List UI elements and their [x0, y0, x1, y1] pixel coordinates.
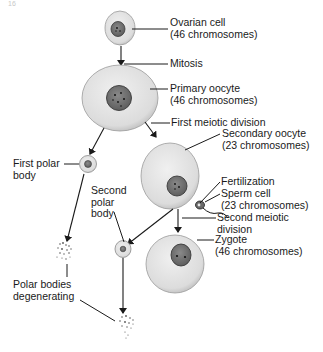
degenerating-leader-2: [80, 300, 115, 321]
label-secondary-oocyte: Secondary oocyte (23 chromosomes): [222, 128, 310, 151]
label-line: Ovarian cell: [170, 17, 258, 29]
label-mitosis: Mitosis: [170, 58, 203, 70]
label-second-polar-body: Second polar body: [91, 185, 127, 220]
degenerating-polar-body-2: [119, 315, 134, 338]
arrow-to-first-polar-body: [90, 128, 104, 154]
label-zygote: Zygote (46 chromosomes): [215, 234, 303, 257]
label-line: Second: [91, 185, 127, 197]
page-number-fragment: 16: [8, 0, 16, 7]
secondary-oocyte-leader: [185, 134, 220, 150]
ovarian-cell: [105, 11, 135, 45]
label-line: Sperm cell: [221, 188, 309, 200]
first-polar-body: [80, 156, 97, 173]
primary-oocyte: [82, 65, 158, 131]
label-line: Primary oocyte: [170, 83, 258, 95]
label-line: (46 chromosomes): [170, 95, 258, 107]
label-line: Polar bodies: [13, 279, 74, 291]
label-line: (23 chromosomes): [222, 140, 310, 152]
first-meiotic-arrow: [145, 122, 156, 137]
label-line: Second meiotic: [217, 212, 289, 224]
label-ovarian-cell: Ovarian cell (46 chromosomes): [170, 17, 258, 40]
label-polar-bodies-degenerating: Polar bodies degenerating: [13, 279, 74, 302]
label-line: body: [91, 208, 127, 220]
zygote: [146, 235, 204, 293]
label-second-meiotic-division: Second meiotic division: [217, 212, 289, 235]
label-line: (23 chromosomes): [221, 200, 309, 212]
label-first-polar-body: First polar body: [13, 158, 60, 181]
secondary-oocyte: [141, 143, 199, 209]
label-fertilization: Fertilization: [221, 176, 275, 188]
label-sperm-cell: Sperm cell (23 chromosomes): [221, 188, 309, 211]
label-line: (46 chromosomes): [215, 246, 303, 258]
label-line: First polar: [13, 158, 60, 170]
label-line: degenerating: [13, 291, 74, 303]
label-line: body: [13, 170, 60, 182]
label-primary-oocyte: Primary oocyte (46 chromosomes): [170, 83, 258, 106]
arrow-first-polar-degenerate: [67, 174, 84, 241]
label-line: Secondary oocyte: [222, 128, 310, 140]
degenerating-polar-body-1: [56, 242, 71, 260]
label-line: (46 chromosomes): [170, 29, 258, 41]
label-line: Zygote: [215, 234, 303, 246]
second-polar-body: [115, 241, 131, 258]
